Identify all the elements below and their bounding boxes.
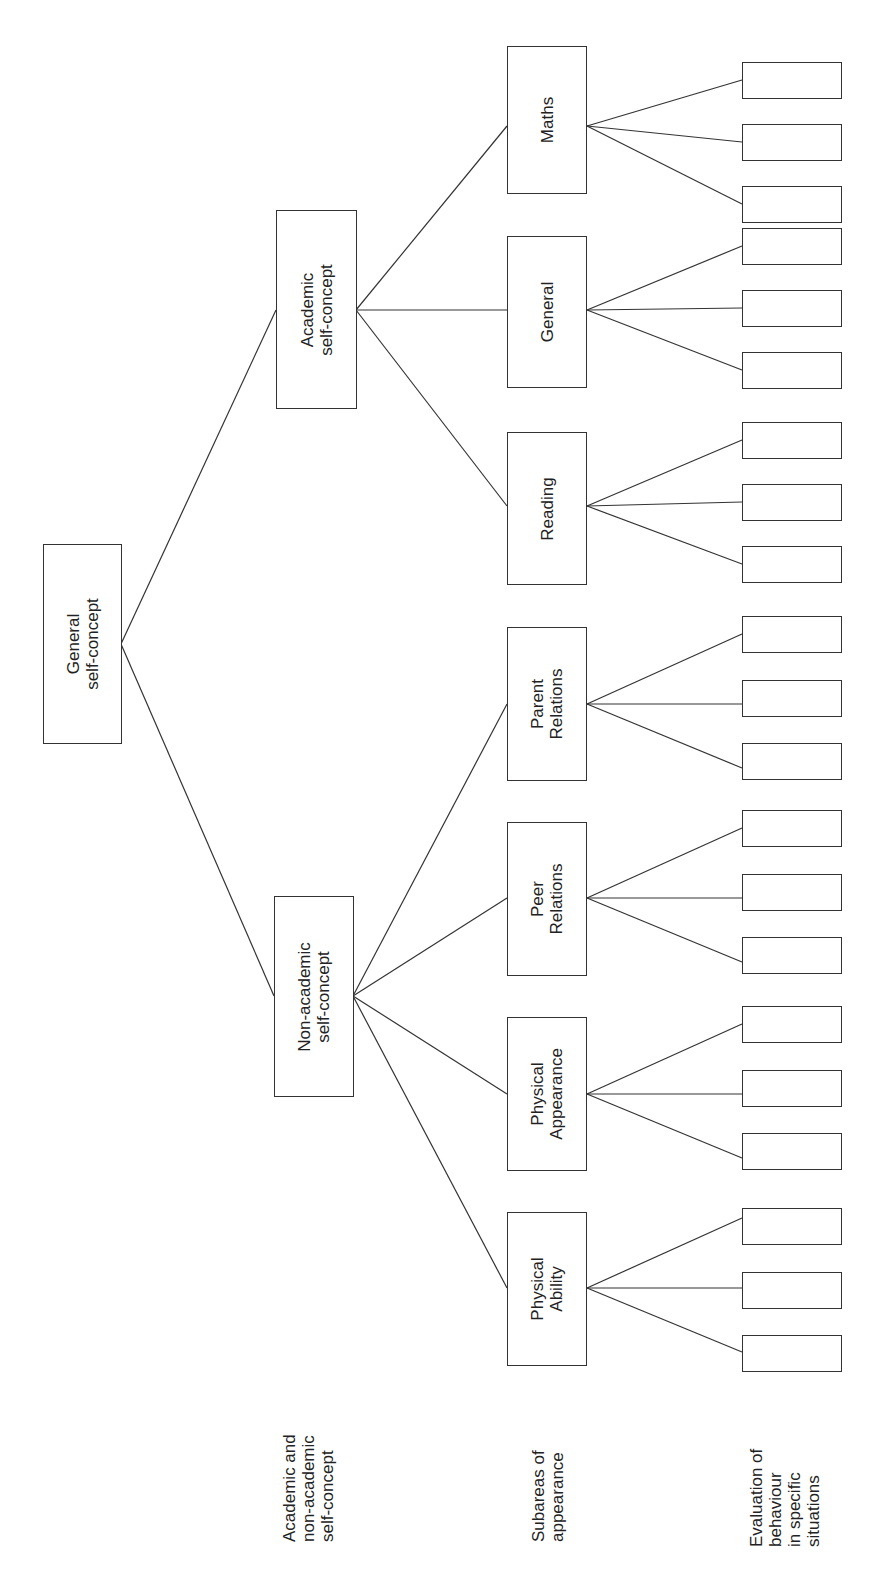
leaf-box [742,290,842,327]
node-parent-relations: Parent Relations [507,627,587,781]
node-label: Physical Ability [528,1257,566,1320]
leaf-box [742,228,842,265]
node-label: General [538,282,557,342]
node-physical-appearance: Physical Appearance [507,1017,587,1171]
node-peer-relations: Peer Relations [507,822,587,976]
node-general-academic: General [507,236,587,388]
node-maths: Maths [507,46,587,194]
leaf-box [742,1208,842,1245]
leaf-box [742,680,842,717]
leaf-box [742,1133,842,1170]
node-label: Reading [538,477,557,540]
leaf-box [742,352,842,389]
leaf-box [742,1006,842,1043]
row-label-level2: Academic and non-academic self-concept [280,1434,337,1542]
leaf-box [742,546,842,583]
leaf-box [742,62,842,99]
leaf-box [742,1335,842,1372]
node-label: General self-concept [64,598,102,690]
leaf-box [742,874,842,911]
leaf-box [742,937,842,974]
node-label: Maths [538,97,557,143]
node-label: Peer Relations [528,864,566,935]
leaf-box [742,186,842,223]
node-non-academic-self-concept: Non-academic self-concept [274,896,354,1097]
leaf-box [742,810,842,847]
leaf-box [742,124,842,161]
node-label: Parent Relations [528,669,566,740]
leaf-box [742,743,842,780]
node-physical-ability: Physical Ability [507,1212,587,1366]
node-general-self-concept: General self-concept [43,544,122,744]
leaf-box [742,484,842,521]
leaf-box [742,422,842,459]
leaf-box [742,1070,842,1107]
row-label-level4: Evaluation of behaviour in specific situ… [747,1449,823,1547]
node-label: Academic self-concept [298,264,336,356]
row-label-level3: Subareas of appearance [529,1450,567,1542]
node-label: Non-academic self-concept [295,942,333,1052]
node-academic-self-concept: Academic self-concept [276,210,357,409]
leaf-box [742,1272,842,1309]
node-reading: Reading [507,432,587,585]
leaf-box [742,616,842,653]
node-label: Physical Appearance [528,1048,566,1140]
